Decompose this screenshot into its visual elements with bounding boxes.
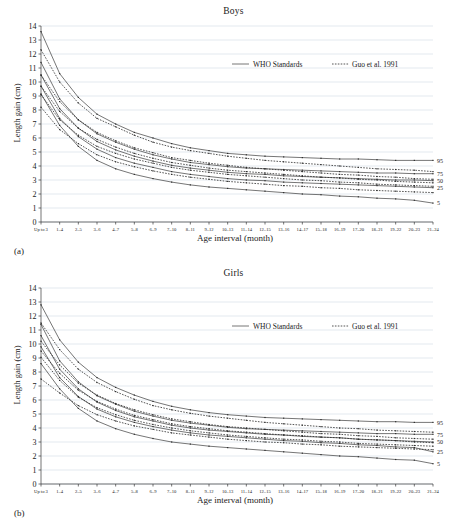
x-tick-label: 15–18 [315,227,327,232]
data-point [96,154,97,155]
data-point [96,146,97,147]
data-point [134,149,135,150]
data-point [78,362,79,363]
data-point [227,188,228,189]
data-point [115,142,116,143]
data-point [96,133,97,134]
data-point [190,174,191,175]
data-point [208,150,209,151]
data-point [358,435,359,436]
data-point [40,107,41,108]
data-point [395,184,396,185]
data-point [376,430,377,431]
data-point [283,174,284,175]
data-point [40,346,41,347]
data-point [414,447,415,448]
data-point [376,159,377,160]
data-point [432,182,433,183]
x-tick-label: 7–10 [167,489,177,494]
data-point [171,165,172,166]
data-point [414,191,415,192]
data-point [376,168,377,169]
data-point [115,140,116,141]
data-point [414,186,415,187]
data-point [320,187,321,188]
data-point [96,141,97,142]
data-point [171,420,172,421]
data-point [40,350,41,351]
data-point [414,460,415,461]
data-point [320,183,321,184]
data-point [339,427,340,428]
data-point [395,186,396,187]
data-point [208,437,209,438]
data-point [134,399,135,400]
data-point [190,147,191,148]
data-point [432,439,433,440]
data-point [320,442,321,443]
data-point [227,434,228,435]
data-point [414,441,415,442]
data-point [283,439,284,440]
data-point [115,161,116,162]
data-point [320,180,321,181]
data-point [59,73,60,74]
percentile-label: 75 [437,432,443,438]
data-point [59,373,60,374]
data-point [59,129,60,130]
y-tick-label: 6 [33,134,37,143]
data-point [171,147,172,148]
data-point [59,388,60,389]
data-point [190,426,191,427]
x-tick-label: 15–18 [315,489,327,494]
data-point [152,137,153,138]
y-tick-label: 10 [29,78,37,87]
data-point [395,440,396,441]
data-point [339,434,340,435]
series-line [41,341,433,439]
data-point [152,426,153,427]
data-point [190,421,191,422]
data-point [78,405,79,406]
data-point [339,441,340,442]
data-point [208,428,209,429]
data-point [358,420,359,421]
data-point [358,158,359,159]
data-point [395,433,396,434]
data-point [264,439,265,440]
data-point [171,425,172,426]
data-point [208,416,209,417]
data-point [264,429,265,430]
data-point [339,182,340,183]
data-point [152,152,153,153]
data-point [96,414,97,415]
y-tick-label: 3 [33,176,37,185]
data-point [171,418,172,419]
data-point [283,440,284,441]
data-point [246,427,247,428]
data-point [339,443,340,444]
data-point [190,165,191,166]
data-point [358,456,359,457]
data-point [171,158,172,159]
data-point [59,377,60,378]
data-point [40,62,41,63]
data-point [358,446,359,447]
data-point [115,387,116,388]
data-point [227,414,228,415]
data-point [115,147,116,148]
data-point [59,125,60,126]
data-point [171,430,172,431]
x-tick-label: 4–7 [112,489,120,494]
data-point [302,170,303,171]
data-point [339,158,340,159]
data-point [358,428,359,429]
data-point [78,119,79,120]
data-point [432,451,433,452]
data-point [96,377,97,378]
data-point [358,179,359,180]
data-point [208,179,209,180]
data-point [414,431,415,432]
data-point [302,439,303,440]
x-tick-label: 20–23 [409,227,421,232]
